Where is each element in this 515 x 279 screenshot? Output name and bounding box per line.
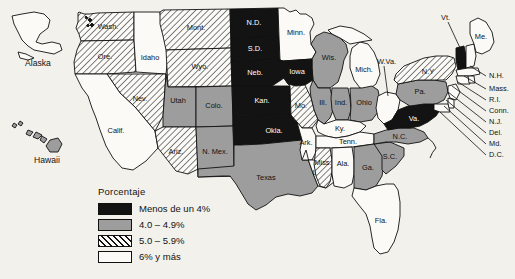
- state-label-colo: Colo.: [205, 101, 222, 110]
- state-label-sd: S.D.: [248, 44, 262, 53]
- state-nc: N.C.: [374, 128, 428, 144]
- callout-label-mass: Mass.: [489, 84, 509, 93]
- state-label-me: Me.: [475, 32, 487, 41]
- state-label-ny: N.Y: [422, 67, 434, 76]
- state-label-ky: Ky.: [335, 124, 345, 133]
- state-iowa: Iowa: [280, 59, 313, 86]
- inset-hawaii: Hawaii: [12, 121, 62, 165]
- state-ore: Ore.: [74, 40, 136, 74]
- state-label-sc: S.C.: [383, 152, 397, 161]
- legend-label-black: Menos de un 4%: [139, 203, 210, 214]
- legend-item-white: 6% y más: [62, 249, 242, 264]
- legend-item-black: Menos de un 4%: [62, 201, 242, 216]
- state-sd: S.D.: [231, 37, 280, 61]
- state-label-va: Va.: [409, 114, 420, 123]
- state-label-ala: Ala.: [337, 159, 350, 168]
- state-ala: Ala.: [332, 147, 354, 188]
- state-okla: Okla.: [233, 115, 302, 145]
- callout-label-nj: N.J.: [489, 117, 502, 126]
- state-mont: Mont.: [160, 9, 231, 50]
- state-kan: Kan.: [232, 86, 291, 116]
- state-label-calif: Calif.: [108, 126, 125, 135]
- legend-label-gray: 4.0 – 4.9%: [139, 219, 184, 230]
- state-ny: N.Y: [394, 56, 456, 84]
- state-label-kan: Kan.: [254, 96, 269, 105]
- state-wis: Wis.: [311, 32, 348, 88]
- legend-swatch-white: [98, 251, 132, 263]
- callout-label-ri: R.I.: [489, 95, 501, 104]
- state-neb: Neb.: [231, 60, 284, 86]
- state-label-miss: Miss.: [314, 158, 331, 167]
- state-label-pa: Pa.: [414, 87, 425, 96]
- state-label-nc: N.C.: [393, 132, 408, 141]
- state-label-minn: Minn.: [287, 28, 305, 37]
- state-wyo: Wyo.: [166, 48, 232, 87]
- legend-swatch-black: [98, 203, 132, 215]
- inset-alaska: Alaska: [12, 12, 62, 68]
- legend-title: Porcentaje: [98, 186, 242, 197]
- state-label-ind: Ind.: [335, 98, 347, 107]
- state-label-ohio: Ohio: [356, 98, 372, 107]
- state-label-ariz: Ariz.: [169, 147, 184, 156]
- state-pa: Pa.: [396, 80, 448, 106]
- map-container: Wash. Ore. Idaho Mont. Wyo.: [0, 0, 515, 279]
- map-legend: Porcentaje Menos de un 4% 4.0 – 4.9% 5.0…: [62, 186, 242, 265]
- legend-item-hatch: 5.0 – 5.9%: [62, 233, 242, 248]
- callout-label-nh: N.H.: [489, 71, 504, 80]
- state-label-nev: Nev.: [133, 94, 148, 103]
- callout-label-md: Md.: [489, 139, 501, 148]
- state-label-fla: Fla.: [375, 216, 387, 225]
- inset-label-alaska: Alaska: [25, 58, 51, 68]
- state-md: [434, 104, 450, 112]
- state-label-tenn: Tenn.: [339, 137, 357, 146]
- state-label-neb: Neb.: [247, 68, 263, 77]
- state-label-ill: Ill.: [319, 98, 326, 107]
- state-minn: Minn.: [278, 8, 316, 61]
- state-label-mont: Mont.: [187, 23, 205, 32]
- state-label-nd: N.D.: [247, 18, 262, 27]
- state-colo: Colo.: [196, 86, 233, 127]
- state-nj: [448, 84, 460, 100]
- state-ariz: Ariz.: [155, 127, 198, 174]
- state-wash: Wash.: [76, 12, 134, 41]
- legend-label-hatch: 5.0 – 5.9%: [139, 235, 184, 246]
- state-label-ore: Ore.: [98, 52, 112, 61]
- state-ohio: Ohio: [350, 86, 380, 122]
- state-label-okla: Okla.: [265, 126, 282, 135]
- state-label-texas: Texas: [256, 173, 276, 182]
- callout-label-wva: W.Va.: [377, 57, 396, 66]
- state-label-ark: Ark.: [299, 138, 312, 147]
- legend-swatch-hatch: [98, 235, 132, 247]
- callout-label-vt: Vt.: [441, 13, 450, 22]
- state-label-mich: Mich.: [355, 65, 373, 74]
- state-nd: N.D.: [230, 8, 279, 38]
- state-label-nmex: N. Mex.: [202, 147, 227, 156]
- state-label-wash: Wash.: [98, 22, 119, 31]
- callout-label-del: Del.: [489, 128, 502, 137]
- legend-swatch-gray: [98, 219, 132, 231]
- state-label-ga: Ga.: [362, 163, 374, 172]
- legend-item-gray: 4.0 – 4.9%: [62, 217, 242, 232]
- state-ind: Ind.: [331, 88, 351, 120]
- state-label-wis: Wis.: [322, 53, 336, 62]
- callout-label-dc: D.C.: [489, 150, 504, 159]
- state-label-wyo: Wyo.: [192, 62, 209, 71]
- callout-label-conn: Conn.: [489, 106, 509, 115]
- state-label-utah: Utah: [170, 96, 186, 105]
- coast-outline: [428, 138, 436, 158]
- state-fla: Fla.: [352, 184, 400, 254]
- legend-label-white: 6% y más: [139, 251, 181, 262]
- state-label-idaho: Idaho: [141, 53, 160, 62]
- state-label-iowa: Iowa: [289, 67, 306, 76]
- inset-label-hawaii: Hawaii: [34, 155, 60, 165]
- state-mich: Mich.: [350, 42, 380, 90]
- state-mass: [456, 68, 480, 76]
- state-label-mo: Mo.: [295, 101, 307, 110]
